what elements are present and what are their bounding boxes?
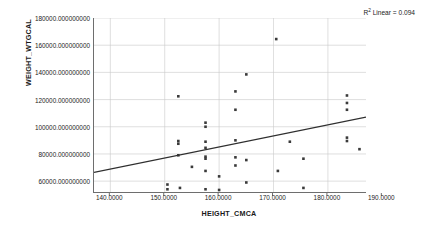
data-point: [166, 183, 169, 186]
plot-area: [93, 18, 366, 193]
scatter-chart: WEIGHT_WTGCAL 60000.00000000080000.00000…: [0, 0, 421, 232]
data-point: [302, 187, 305, 190]
data-point: [204, 125, 207, 128]
data-point: [234, 164, 237, 167]
data-point: [218, 189, 221, 192]
x-axis-tick-labels: 140.0000150.0000160.0000170.0000180.0000…: [0, 194, 421, 208]
regression-line: [94, 117, 366, 172]
data-point: [245, 181, 248, 184]
data-point: [234, 156, 237, 159]
data-point: [234, 90, 237, 93]
x-axis-tick-label: 140.0000: [79, 194, 139, 201]
x-axis-tick-label: 180.0000: [297, 194, 357, 201]
data-point: [166, 188, 169, 191]
plot-canvas: [94, 18, 366, 192]
x-axis-tick-label: 160.0000: [188, 194, 248, 201]
data-point: [245, 159, 248, 162]
data-point: [346, 108, 349, 111]
x-axis-tick-label: 190.0000: [351, 194, 411, 201]
data-point: [177, 140, 180, 143]
y-axis-tick-label: 140000.000000000: [4, 69, 90, 76]
data-point: [245, 73, 248, 76]
x-axis-tick-label: 170.0000: [243, 194, 303, 201]
data-point: [204, 147, 207, 150]
data-points-layer: [166, 38, 361, 191]
y-axis-tick-label: 120000.000000000: [4, 96, 90, 103]
data-point: [346, 140, 349, 143]
horizontal-gridlines: [94, 18, 366, 181]
data-point: [346, 102, 349, 105]
y-axis-tick-label: 60000.000000000: [4, 178, 90, 185]
y-axis-tick-label: 100000.000000000: [4, 123, 90, 130]
x-axis-tick-label: 150.0000: [134, 194, 194, 201]
data-point: [275, 38, 278, 41]
r-squared-text: Linear = 0.094: [371, 9, 415, 16]
data-point: [277, 170, 280, 173]
data-point: [234, 139, 237, 142]
data-point: [302, 157, 305, 160]
data-point: [177, 95, 180, 98]
y-axis-tick-label: 180000.000000000: [4, 15, 90, 22]
vertical-gridlines: [110, 18, 366, 192]
data-point: [218, 175, 221, 178]
data-point: [191, 166, 194, 169]
y-axis-tick-label: 160000.000000000: [4, 42, 90, 49]
data-point: [346, 94, 349, 97]
data-point: [177, 142, 180, 145]
data-point: [358, 148, 361, 151]
data-point: [204, 170, 207, 173]
data-point: [204, 157, 207, 160]
y-axis-tick-label: 80000.000000000: [4, 150, 90, 157]
data-point: [289, 140, 292, 143]
data-point: [234, 108, 237, 111]
data-point: [179, 187, 182, 190]
x-axis-title: HEIGHT_CMCA: [93, 209, 365, 218]
r-squared-annotation: R2 Linear = 0.094: [363, 8, 415, 16]
data-point: [204, 121, 207, 124]
data-point: [346, 136, 349, 139]
data-point: [204, 140, 207, 143]
data-point: [204, 188, 207, 191]
